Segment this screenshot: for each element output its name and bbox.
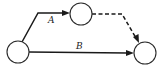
activity-network-diagram: A B bbox=[0, 0, 161, 68]
edge-a: A bbox=[22, 10, 70, 42]
edge-a-line bbox=[22, 13, 64, 42]
node-start bbox=[7, 41, 29, 63]
edge-dummy bbox=[92, 14, 139, 43]
edge-b-label: B bbox=[75, 41, 83, 51]
edge-a-arrowhead-icon bbox=[62, 10, 70, 16]
edge-b-arrowhead-icon bbox=[126, 50, 134, 56]
edge-a-label: A bbox=[47, 15, 55, 25]
edge-b-line bbox=[29, 52, 127, 53]
node-mid bbox=[70, 3, 92, 25]
node-end bbox=[134, 42, 156, 64]
edge-b: B bbox=[29, 41, 134, 56]
edge-dummy-line bbox=[92, 14, 136, 38]
